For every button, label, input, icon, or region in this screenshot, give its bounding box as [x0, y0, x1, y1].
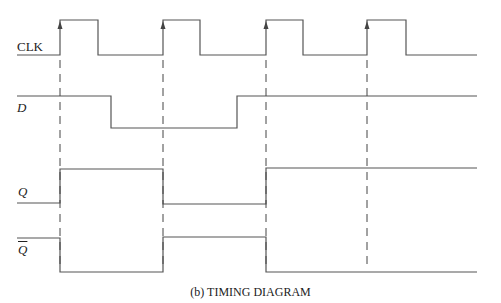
d-label: D	[17, 100, 26, 116]
clk-label: CLK	[17, 39, 43, 55]
timing-diagram: CLK D Q Q (b) TIMING DIAGRAM	[0, 0, 501, 303]
d-waveform	[17, 96, 477, 128]
clk-waveform	[17, 20, 477, 55]
q-waveform	[17, 168, 477, 204]
clock-edge-arrows	[58, 21, 370, 29]
q-bar-label: Q	[18, 242, 27, 258]
q-bar-waveform	[17, 237, 477, 272]
edge-guide-lines	[60, 60, 367, 270]
figure-caption: (b) TIMING DIAGRAM	[0, 285, 501, 300]
q-label: Q	[18, 184, 27, 200]
waveform-canvas	[0, 0, 501, 303]
